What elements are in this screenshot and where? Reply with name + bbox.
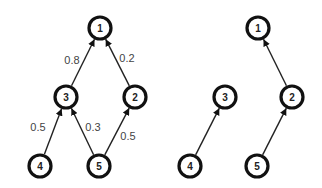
edge-weight-label: 0.2 xyxy=(119,52,134,64)
edge-weight-label: 0.5 xyxy=(120,130,135,142)
tree-node-3: 3 xyxy=(214,86,236,108)
weighted-graph-node-1: 1 xyxy=(89,17,111,39)
tree-edge-2-to-1 xyxy=(264,39,287,86)
arrow-icon xyxy=(44,109,61,155)
tree-node-2: 2 xyxy=(281,86,303,108)
node-label: 2 xyxy=(289,92,295,103)
arrow-icon xyxy=(196,108,220,155)
node-label: 3 xyxy=(222,92,228,103)
node-label: 1 xyxy=(255,23,261,34)
node-label: 4 xyxy=(37,161,43,172)
tree-node-5: 5 xyxy=(246,155,268,177)
edge-weight-label: 0.5 xyxy=(30,121,45,133)
node-label: 4 xyxy=(187,161,193,172)
tree-node-4: 4 xyxy=(179,155,201,177)
node-label: 1 xyxy=(97,23,103,34)
edge-weight-label: 0.3 xyxy=(85,121,100,133)
tree-edge-5-to-2 xyxy=(263,108,287,155)
node-label: 3 xyxy=(63,92,69,103)
weighted-graph-node-3: 3 xyxy=(55,86,77,108)
weighted-graph-edge-4-to-3 xyxy=(44,109,61,155)
tree-edge-4-to-3 xyxy=(196,108,220,155)
nodes-layer: 1234512345 xyxy=(29,17,303,177)
edge-weight-label: 0.8 xyxy=(64,54,79,66)
edge-labels-layer: 0.80.20.50.30.5 xyxy=(30,52,135,142)
tree-node-1: 1 xyxy=(247,17,269,39)
arrow-icon xyxy=(264,39,287,86)
graph-canvas: 0.80.20.50.30.5 1234512345 xyxy=(0,0,322,188)
node-label: 5 xyxy=(254,161,260,172)
arrow-icon xyxy=(263,108,287,155)
node-label: 5 xyxy=(96,161,102,172)
edges-layer xyxy=(44,39,286,155)
weighted-graph-node-5: 5 xyxy=(88,155,110,177)
weighted-graph-node-4: 4 xyxy=(29,155,51,177)
node-label: 2 xyxy=(132,92,138,103)
weighted-graph-node-2: 2 xyxy=(124,86,146,108)
